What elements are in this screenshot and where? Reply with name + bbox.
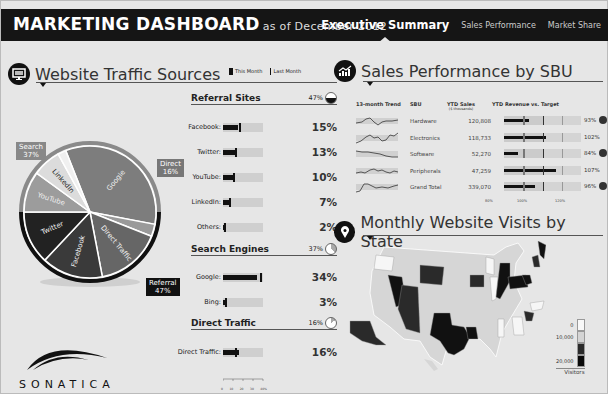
sbu-row: Grand Total 339,070 96%: [356, 179, 601, 195]
sbu-name: Hardware: [410, 118, 437, 124]
dashboard: MARKETING DASHBOARDas of December 2012 E…: [0, 0, 608, 394]
sonatica-logo: SONATICA: [19, 336, 119, 391]
map-legend: 0 10,000 20,000 Visitors: [556, 319, 585, 375]
group-direct-traffic: Direct Traffic 16%: [191, 316, 337, 330]
alert-dot-icon: [599, 116, 607, 124]
bullet-row-bing: Bing: 3%: [169, 295, 337, 309]
header-bar: MARKETING DASHBOARDas of December 2012 E…: [1, 9, 608, 41]
revenue-bullet: [504, 116, 581, 125]
map-pin-icon: [334, 221, 355, 243]
sales-title-rule: [363, 81, 603, 82]
ytd-sales: 47,259: [451, 168, 491, 174]
sparkline: [356, 132, 398, 144]
visits-title-rule: [363, 235, 603, 236]
bullet-axis: 010203040%: [223, 368, 265, 391]
revenue-bullet: [504, 166, 581, 175]
sbu-name: Software: [410, 151, 434, 157]
tab-market-share[interactable]: Market Share: [548, 21, 601, 30]
traffic-legend: This Month Last Month: [229, 68, 301, 75]
legend-caption: Visitors: [556, 368, 585, 375]
traffic-title-rule: [36, 82, 337, 83]
us-states-map: [346, 241, 546, 386]
bullet-row-direct-traffic: Direct Traffic: 16%: [169, 345, 337, 359]
sbu-name: Peripherals: [410, 168, 441, 174]
revenue-pct: 107%: [584, 167, 600, 173]
ytd-sales: 120,808: [451, 118, 491, 124]
col-sbu: SBU: [410, 101, 421, 107]
pie-label-direct: Direct16%: [157, 159, 184, 177]
pie-label-search: Search37%: [16, 142, 46, 160]
legend-this-month: This Month: [229, 68, 262, 75]
revenue-bullet: [504, 133, 581, 142]
sbu-row: Electronics 118,733 102%: [356, 130, 601, 146]
revenue-pct: 93%: [584, 117, 596, 123]
ytd-sales: 52,270: [451, 151, 491, 157]
revenue-bullet: [504, 182, 581, 191]
sparkline: [356, 165, 398, 177]
bullet-row-linkedin: LinkedIn: 7%: [169, 195, 337, 209]
section-title: Website Traffic Sources: [35, 65, 220, 84]
sbu-name: Electronics: [410, 135, 440, 141]
sparkline: [356, 181, 398, 193]
revenue-bullet: [504, 149, 581, 158]
tab-sales-performance[interactable]: Sales Performance: [461, 21, 536, 30]
half-pie-icon: [325, 92, 337, 104]
ytd-sales: 339,070: [451, 184, 491, 190]
group-referral-sites: Referral Sites 47%: [191, 91, 337, 105]
sparkline: [356, 115, 398, 127]
revenue-pct: 102%: [584, 134, 600, 140]
sparkline: [356, 148, 398, 160]
sbu-name: Grand Total: [410, 184, 441, 190]
bullet-row-facebook: Facebook: 15%: [169, 120, 337, 134]
col-rev-target: YTD Revenue vs. Target: [492, 101, 559, 107]
logo-text: SONATICA: [19, 378, 119, 391]
bullet-row-google: Google: 34%: [169, 270, 337, 284]
revenue-pct: 84%: [584, 150, 596, 156]
col-ytd-sales: YTD Sales($ thousands): [447, 101, 475, 111]
pie-label-referral: Referral47%: [146, 278, 180, 296]
ytd-sales: 118,733: [451, 135, 491, 141]
legend-last-month: Last Month: [270, 68, 301, 75]
sbu-row: Software 52,270 84%: [356, 146, 601, 162]
bullet-row-youtube: YouTube: 10%: [169, 170, 337, 184]
col-trend: 13-month Trend: [356, 101, 401, 107]
sales-section-title: Sales Performance by SBU: [334, 60, 573, 82]
tab-executive-summary[interactable]: Executive Summary: [321, 18, 449, 32]
alert-dot-icon: [599, 149, 607, 157]
monitor-icon: [8, 63, 30, 85]
sbu-row: Peripherals 47,259 107%: [356, 163, 601, 179]
dashboard-title: MARKETING DASHBOARD: [13, 14, 260, 34]
pie-16-icon: [325, 317, 337, 329]
chart-up-icon: [334, 60, 356, 82]
group-search-engines: Search Engines 37%: [191, 242, 337, 256]
traffic-pie-chart: GoogleDirect TrafficFacebookTwitterYouTu…: [19, 141, 161, 283]
nav-tabs: Executive Summary Sales Performance Mark…: [321, 9, 601, 41]
alert-dot-icon: [599, 182, 607, 190]
section-title: Sales Performance by SBU: [361, 62, 573, 81]
sbu-row: Hardware 120,808 93%: [356, 113, 601, 129]
bullet-row-others: Others: 2%: [169, 220, 337, 234]
bullet-row-twitter: Twitter: 13%: [169, 145, 337, 159]
revenue-pct: 96%: [584, 183, 596, 189]
